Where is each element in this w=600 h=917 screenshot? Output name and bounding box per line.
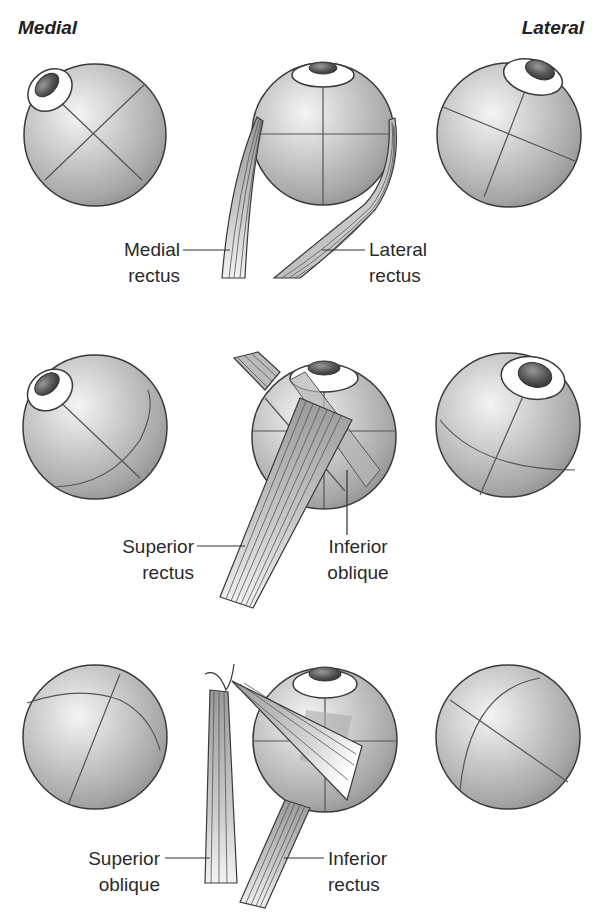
label-line1: Superior bbox=[66, 846, 160, 872]
label-line1: Inferior bbox=[328, 846, 408, 872]
label-line2: rectus bbox=[110, 263, 180, 289]
eye-up-medial-gaze bbox=[19, 355, 167, 499]
label-lateral-rectus: Lateral rectus bbox=[369, 237, 449, 289]
eye-lateral-gaze-row1 bbox=[437, 53, 581, 207]
label-superior-oblique: Superior oblique bbox=[66, 846, 160, 898]
label-line1: Superior bbox=[100, 534, 194, 560]
medial-rectus-muscle bbox=[222, 117, 263, 278]
eye-up-lateral-gaze bbox=[436, 352, 580, 497]
label-superior-rectus: Superior rectus bbox=[100, 534, 194, 586]
label-line2: oblique bbox=[318, 560, 398, 586]
label-line1: Lateral bbox=[369, 237, 449, 263]
label-inferior-rectus: Inferior rectus bbox=[328, 846, 408, 898]
inferior-rectus-muscle bbox=[240, 800, 310, 908]
label-line1: Medial bbox=[110, 237, 180, 263]
eye-down-lateral-gaze bbox=[436, 665, 580, 809]
label-line2: rectus bbox=[100, 560, 194, 586]
label-line2: oblique bbox=[66, 872, 160, 898]
eye-down-medial-gaze bbox=[23, 665, 167, 809]
label-line2: rectus bbox=[328, 872, 408, 898]
extraocular-muscles-diagram bbox=[0, 0, 600, 917]
label-medial-rectus: Medial rectus bbox=[110, 237, 180, 289]
eye-medial-gaze-row1 bbox=[19, 60, 166, 206]
label-inferior-oblique: Inferior oblique bbox=[318, 534, 398, 586]
label-line2: rectus bbox=[369, 263, 449, 289]
eye-primary-gaze-row1 bbox=[252, 62, 394, 205]
label-line1: Inferior bbox=[318, 534, 398, 560]
